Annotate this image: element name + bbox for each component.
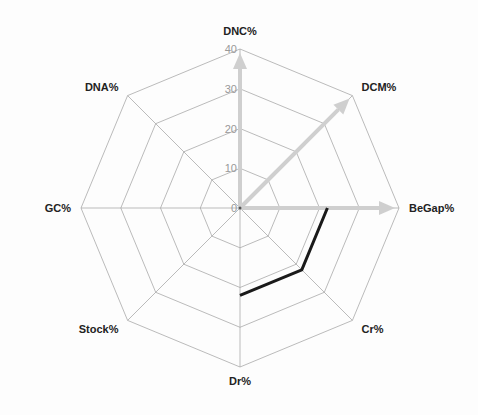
axis-label-dcm: DCM%: [362, 81, 397, 93]
center-dot: [239, 207, 242, 210]
arrow-shaft: [240, 110, 338, 208]
tick-label: 10: [225, 162, 237, 174]
axis-label-dna: DNA%: [85, 81, 119, 93]
axis-label-begap: BeGap%: [409, 202, 454, 214]
axis-label-cr: Cr%: [362, 323, 384, 335]
axis-label-dr: Dr%: [229, 375, 251, 387]
axis-label-gc: GC%: [45, 202, 72, 214]
tick-label: 20: [225, 123, 237, 135]
arrowhead-icon: [379, 201, 395, 215]
tick-label: 40: [225, 43, 237, 55]
arrowhead-icon: [233, 53, 247, 69]
axis-arrows: [233, 53, 395, 215]
axis-label-dnc: DNC%: [223, 25, 257, 37]
radar-chart: 010203040 DNC%DCM%BeGap%Cr%Dr%Stock%GC%D…: [0, 0, 478, 415]
tick-label: 0: [231, 202, 237, 214]
tick-label: 30: [225, 83, 237, 95]
axis-label-stock: Stock%: [79, 323, 119, 335]
